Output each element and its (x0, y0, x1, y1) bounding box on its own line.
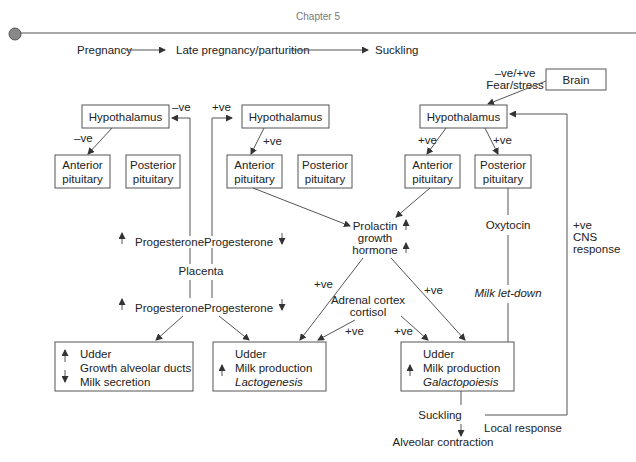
prolactin-label: hormone (352, 244, 397, 256)
box-line: Posterior (130, 159, 176, 171)
milk-letdown-label: Milk let-down (474, 287, 541, 299)
positive-feedback-label: +ve (212, 101, 231, 113)
progesterone-label: Progesterone (204, 236, 273, 248)
box-line: Udder (235, 348, 266, 360)
lactation-control-diagram: Chapter 5 Pregnancy Late pregnancy/partu… (0, 0, 636, 462)
adrenal-label: cortisol (350, 306, 386, 318)
box-line: Anterior (62, 159, 102, 171)
progesterone-label: Progesterone (135, 236, 204, 248)
positive-label: +ve (418, 134, 437, 146)
box-line: Posterior (302, 159, 348, 171)
box-line: Galactopoiesis (423, 376, 499, 388)
adrenal-label: Adrenal cortex (331, 294, 405, 306)
arrow-icon (219, 316, 249, 340)
box-line: Posterior (480, 159, 526, 171)
progesterone-label: Progesterone (135, 302, 204, 314)
box-line: Udder (80, 348, 111, 360)
hypothalamus-label: Hypothalamus (249, 111, 323, 123)
brain-signal-label: –ve/+ve (495, 67, 536, 79)
stage-suckling: Suckling (375, 44, 418, 56)
progesterone-label: Progesterone (204, 302, 273, 314)
positive-label: +ve (493, 134, 512, 146)
positive-label: +ve (314, 278, 333, 290)
local-response-label: Local response (484, 422, 562, 434)
arrow-icon (156, 316, 183, 340)
positive-label: +ve (345, 325, 364, 337)
stage-late-pregnancy: Late pregnancy/parturition (176, 44, 310, 56)
positive-label: +ve (394, 325, 413, 337)
stage-pregnancy: Pregnancy (77, 44, 132, 56)
box-line: Anterior (412, 159, 452, 171)
box-line: Anterior (234, 159, 274, 171)
prolactin-label: Prolactin (353, 220, 398, 232)
box-line: pituitary (305, 173, 346, 185)
cns-label: response (573, 243, 620, 255)
hypothalamus-label: Hypothalamus (89, 111, 163, 123)
box-line: Udder (423, 348, 454, 360)
cns-label: CNS (573, 231, 598, 243)
hypothalamus-label: Hypothalamus (427, 111, 501, 123)
positive-label: +ve (263, 135, 282, 147)
chapter-heading: Chapter 5 (296, 11, 340, 22)
alveolar-contraction-label: Alveolar contraction (393, 436, 494, 448)
box-line: Lactogenesis (235, 376, 303, 388)
negative-feedback-label: –ve (172, 101, 191, 113)
box-line: Milk production (423, 362, 500, 374)
box-line: Growth alveolar ducts (80, 362, 191, 374)
box-line: pituitary (133, 173, 174, 185)
suckling-label: Suckling (418, 409, 461, 421)
arrow-icon (396, 188, 430, 217)
box-line: pituitary (234, 173, 275, 185)
oxytocin-label: Oxytocin (486, 219, 531, 231)
box-line: pituitary (483, 173, 524, 185)
chapter-bullet-icon (9, 28, 21, 40)
box-line: Milk production (235, 362, 312, 374)
arrow-icon (253, 188, 350, 226)
negative-label: –ve (74, 132, 93, 144)
cns-label: +ve (573, 219, 592, 231)
prolactin-label: growth (358, 232, 393, 244)
positive-label: +ve (424, 284, 443, 296)
placenta-label: Placenta (179, 265, 224, 277)
brain-label: Brain (563, 74, 590, 86)
box-line: Milk secretion (80, 376, 150, 388)
box-line: pituitary (412, 173, 453, 185)
box-line: pituitary (62, 173, 103, 185)
